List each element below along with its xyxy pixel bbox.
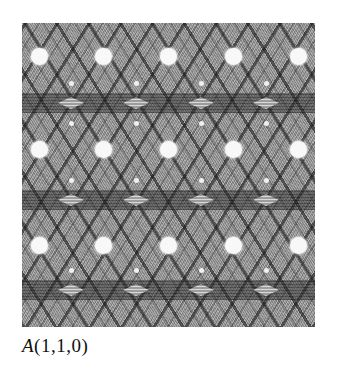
- small-spot: [134, 178, 139, 183]
- white-spot: [95, 237, 112, 254]
- white-spot: [225, 237, 242, 254]
- white-spot: [290, 141, 307, 158]
- white-spot: [160, 237, 177, 254]
- white-spot: [160, 48, 177, 65]
- white-spot: [160, 141, 177, 158]
- lattice-pattern-image: [22, 23, 315, 327]
- white-spot: [225, 48, 242, 65]
- small-spot: [264, 178, 269, 183]
- white-spot: [95, 48, 112, 65]
- caption-function-name: A: [22, 335, 34, 356]
- figure-caption: A(1,1,0): [22, 335, 88, 357]
- white-spot: [290, 48, 307, 65]
- small-spot: [69, 121, 74, 126]
- small-spot: [264, 81, 269, 86]
- small-spot: [264, 268, 269, 273]
- small-spot: [134, 268, 139, 273]
- white-spot: [290, 237, 307, 254]
- small-spot: [69, 81, 74, 86]
- caption-arguments: (1,1,0): [34, 335, 88, 356]
- small-spot: [199, 178, 204, 183]
- small-spot: [69, 268, 74, 273]
- small-spot: [199, 81, 204, 86]
- small-spot: [199, 268, 204, 273]
- white-spot: [31, 237, 48, 254]
- white-spot: [31, 48, 48, 65]
- small-spot: [199, 121, 204, 126]
- white-spot: [95, 141, 112, 158]
- small-spot: [134, 81, 139, 86]
- small-spot: [264, 121, 269, 126]
- small-spot: [134, 121, 139, 126]
- white-spot: [31, 141, 48, 158]
- white-spot: [225, 141, 242, 158]
- small-spot: [69, 178, 74, 183]
